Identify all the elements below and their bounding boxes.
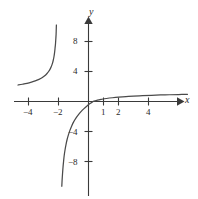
x-axis-label: x bbox=[185, 95, 189, 105]
x-tick-label: −2 bbox=[53, 108, 63, 117]
y-tick-label: −4 bbox=[68, 128, 78, 137]
x-tick-label: 2 bbox=[116, 108, 121, 117]
curve-right-branch bbox=[93, 94, 188, 101]
x-tick-label: 1 bbox=[101, 108, 106, 117]
x-axis-arrowhead bbox=[177, 97, 185, 105]
y-tick-label: 4 bbox=[73, 67, 78, 76]
function-curves bbox=[18, 25, 188, 186]
curve-upper-left-branch bbox=[18, 25, 56, 85]
y-tick-label: 8 bbox=[73, 37, 78, 46]
y-axis-label: y bbox=[89, 7, 93, 17]
y-axis-arrowhead bbox=[84, 17, 92, 25]
x-tick-label: −4 bbox=[23, 108, 33, 117]
rational-function-graph: x y −4−212484−4−8 bbox=[0, 0, 198, 199]
y-tick-label: −8 bbox=[68, 158, 78, 167]
graph-canvas bbox=[0, 0, 198, 199]
x-tick-label: 4 bbox=[146, 108, 151, 117]
